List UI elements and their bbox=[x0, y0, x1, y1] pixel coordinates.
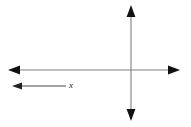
x-vector-arrowhead bbox=[12, 83, 22, 90]
horizontal-axis-right-arrowhead bbox=[168, 66, 180, 75]
coordinate-axes-diagram bbox=[0, 0, 191, 127]
vertical-axis-bottom-arrowhead bbox=[127, 109, 136, 121]
vertical-axis-top-arrowhead bbox=[127, 5, 136, 17]
figure-canvas: x bbox=[0, 0, 191, 127]
horizontal-axis-left-arrowhead bbox=[8, 66, 20, 75]
x-vector-label: x bbox=[69, 81, 73, 90]
